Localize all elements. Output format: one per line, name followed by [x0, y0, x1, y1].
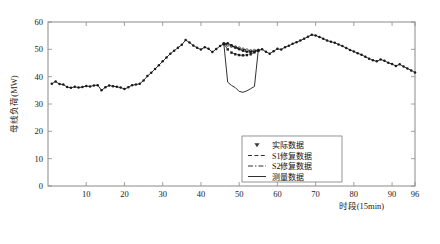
data-point [81, 86, 84, 89]
data-point [135, 83, 138, 86]
data-point [146, 75, 149, 78]
data-point [372, 59, 375, 62]
data-point [391, 63, 394, 66]
data-point [116, 86, 119, 89]
data-point [291, 43, 294, 46]
data-point [131, 84, 134, 87]
series-line-0 [52, 35, 415, 90]
x-tick-label-10: 10 [82, 189, 91, 199]
data-point [188, 41, 191, 44]
data-point [265, 51, 268, 54]
data-point [299, 39, 302, 42]
data-point [337, 43, 340, 46]
x-tick-label-60: 60 [273, 189, 282, 199]
y-axis-title: 母线负荷(MW) [9, 75, 19, 132]
data-point [379, 58, 382, 61]
data-point [387, 61, 390, 64]
data-point [406, 67, 409, 70]
data-point [119, 86, 122, 89]
legend-label-1: S1修复数据 [272, 151, 312, 161]
data-point [318, 36, 321, 39]
data-point [219, 45, 222, 48]
data-point-square [249, 53, 251, 55]
data-point [196, 46, 199, 49]
data-point [142, 79, 145, 82]
data-point [353, 50, 356, 53]
data-point [154, 68, 157, 71]
data-point [161, 60, 164, 63]
data-point-square [253, 51, 255, 53]
y-tick-label-0: 0 [39, 181, 43, 191]
data-point [150, 72, 153, 75]
data-point [77, 86, 80, 89]
data-point [158, 64, 161, 67]
data-point [58, 83, 61, 86]
data-point [326, 39, 329, 42]
data-point [127, 86, 130, 89]
x-tick-label-80: 80 [350, 189, 359, 199]
data-point [349, 49, 352, 52]
data-point [66, 86, 69, 89]
y-tick-label-20: 20 [35, 126, 44, 136]
data-point-square [242, 54, 244, 56]
data-point [200, 48, 203, 51]
data-point [272, 50, 275, 53]
data-point-square [226, 48, 228, 50]
data-point [215, 48, 218, 51]
data-point [341, 45, 344, 48]
data-point [276, 48, 279, 51]
y-tick-label-10: 10 [35, 154, 44, 164]
data-point [402, 65, 405, 68]
x-tick-label-40: 40 [197, 189, 206, 199]
x-tick-label-70: 70 [311, 189, 320, 199]
data-point [322, 37, 325, 40]
data-point [268, 52, 271, 55]
data-point [169, 52, 172, 55]
data-point [261, 48, 264, 51]
x-tick-label-50: 50 [235, 189, 244, 199]
chart-canvas: 010203040506010203040506070809096时段(15mi… [0, 0, 440, 244]
legend-label-3: 测量数据 [272, 172, 304, 182]
data-point [368, 57, 371, 60]
data-point [112, 85, 115, 88]
data-point [203, 46, 206, 49]
data-point-square [230, 51, 232, 53]
data-point [410, 69, 413, 72]
data-point [173, 49, 176, 52]
data-point [311, 34, 314, 37]
y-tick-label-40: 40 [35, 72, 44, 82]
data-point [54, 80, 57, 83]
y-tick-label-30: 30 [35, 99, 44, 109]
data-point [108, 84, 111, 87]
data-point [139, 83, 142, 86]
legend-label-2: S2修复数据 [272, 161, 312, 171]
chart-figure: 010203040506010203040506070809096时段(15mi… [0, 0, 440, 244]
data-point-square [246, 54, 248, 56]
x-tick-label-90: 90 [388, 189, 397, 199]
data-point [51, 83, 54, 86]
data-point [177, 46, 180, 49]
data-point [288, 45, 291, 48]
legend-label-0: 实际数据 [272, 140, 304, 150]
data-point [303, 37, 306, 40]
data-point [85, 85, 88, 88]
data-point [395, 65, 398, 68]
data-point [414, 71, 417, 74]
data-point [192, 44, 195, 47]
data-point [356, 52, 359, 55]
data-point-square [234, 53, 236, 55]
data-point [89, 85, 92, 88]
x-tick-label-96: 96 [411, 189, 420, 199]
data-point [295, 41, 298, 44]
y-tick-label-50: 50 [35, 44, 44, 54]
data-point [345, 47, 348, 50]
data-point [165, 56, 168, 59]
data-point [333, 42, 336, 45]
data-point [360, 54, 363, 57]
data-point [207, 48, 210, 51]
data-point [62, 83, 65, 86]
data-point [364, 55, 367, 58]
data-point [93, 84, 96, 87]
data-point [104, 86, 107, 89]
data-point [181, 43, 184, 46]
